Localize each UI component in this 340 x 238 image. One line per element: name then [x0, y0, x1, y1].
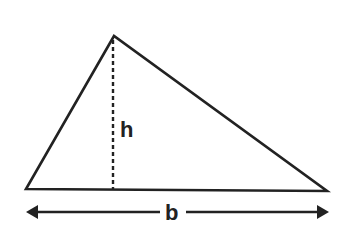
arrowhead-left-icon	[26, 205, 38, 219]
triangle-diagram: h b	[0, 0, 340, 238]
diagram-canvas: h b	[0, 0, 340, 238]
base-label: b	[165, 200, 178, 225]
arrowhead-right-icon	[317, 205, 329, 219]
triangle-shape	[26, 36, 327, 191]
height-label: h	[120, 117, 133, 142]
